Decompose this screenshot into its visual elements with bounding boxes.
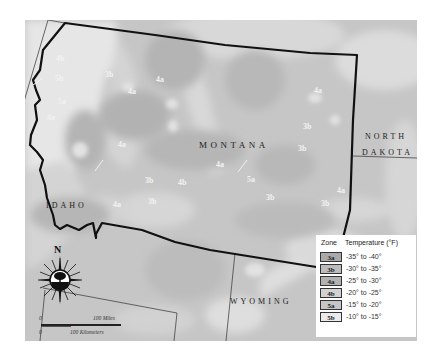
scale-bar: 0 100 Miles 0 100 Kilometers bbox=[37, 315, 127, 340]
legend-range: -20° to -25° bbox=[346, 289, 382, 296]
legend-row: 5a -15° to -20° bbox=[320, 300, 416, 311]
scale-km-zero: 0 bbox=[39, 329, 42, 335]
zone-label: 4b bbox=[178, 178, 186, 187]
zone-label: 4a bbox=[216, 160, 224, 169]
zone-label: 4a bbox=[337, 186, 345, 195]
state-label-wyoming: WYOMING bbox=[230, 297, 291, 306]
zone-label: 3b bbox=[303, 122, 311, 131]
zone-label: 5a bbox=[247, 175, 255, 184]
north-label: N bbox=[54, 244, 61, 255]
legend-swatch: 3b bbox=[320, 264, 342, 274]
legend-swatch: 4a bbox=[320, 276, 342, 286]
compass-rose-icon bbox=[38, 256, 82, 304]
zone-label: 4a bbox=[113, 200, 121, 209]
zone-label: 4a bbox=[118, 140, 126, 149]
legend-swatch: 5b bbox=[320, 312, 342, 322]
zone-label: 4b bbox=[56, 54, 64, 63]
zone-label: 3b bbox=[266, 193, 274, 202]
zone-label: 3b bbox=[145, 176, 153, 185]
state-label-montana: MONTANA bbox=[199, 140, 269, 150]
legend-swatch: 3a bbox=[320, 252, 342, 262]
legend-range: -30° to -35° bbox=[346, 265, 382, 272]
legend-zone-header: Zone bbox=[321, 239, 337, 246]
legend-temp-header: Temperature (°F) bbox=[345, 239, 398, 246]
zone-label: 5a bbox=[58, 97, 66, 106]
zone-label: 5b bbox=[55, 74, 63, 83]
compass-rose: N bbox=[38, 244, 82, 304]
legend-swatch: 5a bbox=[320, 300, 342, 310]
legend-range: -10° to -15° bbox=[346, 313, 382, 320]
legend-row: 5b -10° to -15° bbox=[320, 312, 416, 323]
legend-range: -25° to -30° bbox=[346, 277, 382, 284]
legend-range: -15° to -20° bbox=[346, 301, 382, 308]
state-label-north-dakota-line2: DAKOTA bbox=[362, 148, 413, 157]
zone-label: 4a bbox=[47, 113, 55, 122]
legend-swatch: 4b bbox=[320, 288, 342, 298]
legend-row: 3b -30° to -35° bbox=[320, 264, 416, 275]
legend-row: 4a -25° to -30° bbox=[320, 276, 416, 287]
zone-label: 4a bbox=[314, 86, 322, 95]
zone-label: 3b bbox=[105, 70, 113, 79]
scale-line-km bbox=[41, 326, 71, 327]
zone-label: 3b bbox=[148, 197, 156, 206]
state-label-idaho: IDAHO bbox=[46, 201, 87, 210]
legend: Zone Temperature (°F) 3a -35° to -40° 3b… bbox=[316, 235, 416, 337]
legend-row: 3a -35° to -40° bbox=[320, 252, 416, 263]
zone-label: 3b bbox=[298, 144, 306, 153]
zone-label: 3b bbox=[321, 199, 329, 208]
legend-row: 4b -20° to -25° bbox=[320, 288, 416, 299]
zone-label: 4a bbox=[128, 87, 136, 96]
scale-miles-label: 100 Miles bbox=[93, 315, 115, 321]
scale-km-label: 100 Kilometers bbox=[70, 329, 104, 335]
state-label-north-dakota-line1: NORTH bbox=[365, 132, 407, 141]
scale-miles-zero: 0 bbox=[39, 315, 42, 321]
zone-label: 4a bbox=[156, 75, 164, 84]
legend-range: -35° to -40° bbox=[346, 253, 382, 260]
